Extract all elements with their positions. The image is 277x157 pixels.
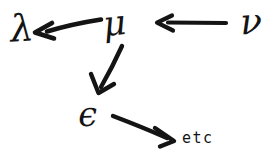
diagram-canvas: λ μ ν ϵ etc (0, 0, 277, 157)
node-mu: μ (101, 5, 127, 42)
arrow-mu-to-lambda (35, 20, 101, 39)
node-nu: ν (239, 3, 263, 40)
arrow-layer (0, 0, 277, 157)
arrow-mu-to-epsilon (91, 46, 122, 93)
arrow-nu-to-mu (157, 16, 226, 31)
node-etc: etc (182, 131, 214, 146)
node-lambda: λ (9, 9, 35, 48)
arrow-epsilon-to-etc (113, 116, 174, 147)
node-epsilon: ϵ (77, 97, 97, 132)
